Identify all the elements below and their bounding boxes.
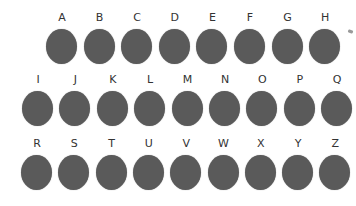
letter-label: M bbox=[172, 74, 204, 86]
circle-button[interactable] bbox=[172, 91, 203, 126]
letter-label: E bbox=[196, 12, 228, 24]
circle-button[interactable] bbox=[309, 29, 340, 64]
circle-button[interactable] bbox=[121, 29, 152, 64]
circle-button[interactable] bbox=[21, 155, 52, 190]
letter-label: H bbox=[309, 12, 341, 24]
circle-button[interactable] bbox=[234, 29, 265, 64]
letter-label: I bbox=[22, 74, 54, 86]
letter-label: Z bbox=[319, 138, 351, 150]
circle-button[interactable] bbox=[321, 91, 352, 126]
circle-button[interactable] bbox=[170, 155, 201, 190]
letter-label: Y bbox=[282, 138, 314, 150]
letter-label: C bbox=[121, 12, 153, 24]
circle-button[interactable] bbox=[58, 155, 89, 190]
letter-label: V bbox=[170, 138, 202, 150]
circle-button[interactable] bbox=[59, 91, 90, 126]
letter-label: Q bbox=[321, 74, 353, 86]
circle-button[interactable] bbox=[134, 91, 165, 126]
circle-button[interactable] bbox=[209, 91, 240, 126]
circle-button[interactable] bbox=[97, 91, 128, 126]
letter-label: L bbox=[134, 74, 166, 86]
circle-button[interactable] bbox=[196, 29, 227, 64]
letter-label: D bbox=[159, 12, 191, 24]
circle-button[interactable] bbox=[133, 155, 164, 190]
letter-label: K bbox=[97, 74, 129, 86]
circle-button[interactable] bbox=[84, 29, 115, 64]
letter-label: S bbox=[58, 138, 90, 150]
letter-label: B bbox=[84, 12, 116, 24]
letter-label: G bbox=[272, 12, 304, 24]
stray-mark-icon bbox=[348, 29, 354, 34]
letter-label: A bbox=[46, 12, 78, 24]
letter-label: F bbox=[234, 12, 266, 24]
circle-button[interactable] bbox=[319, 155, 350, 190]
letter-label: T bbox=[96, 138, 128, 150]
letter-label: U bbox=[133, 138, 165, 150]
letter-label: R bbox=[21, 138, 53, 150]
letter-label: J bbox=[59, 74, 91, 86]
letter-label: O bbox=[246, 74, 278, 86]
circle-button[interactable] bbox=[282, 155, 313, 190]
letter-label: X bbox=[245, 138, 277, 150]
circle-button[interactable] bbox=[284, 91, 315, 126]
circle-button[interactable] bbox=[46, 29, 77, 64]
letter-label: W bbox=[208, 138, 240, 150]
circle-button[interactable] bbox=[246, 91, 277, 126]
circle-button[interactable] bbox=[208, 155, 239, 190]
circle-button[interactable] bbox=[245, 155, 276, 190]
circle-button[interactable] bbox=[159, 29, 190, 64]
letter-label: P bbox=[284, 74, 316, 86]
circle-button[interactable] bbox=[96, 155, 127, 190]
letter-label: N bbox=[209, 74, 241, 86]
circle-button[interactable] bbox=[272, 29, 303, 64]
circle-button[interactable] bbox=[22, 91, 53, 126]
